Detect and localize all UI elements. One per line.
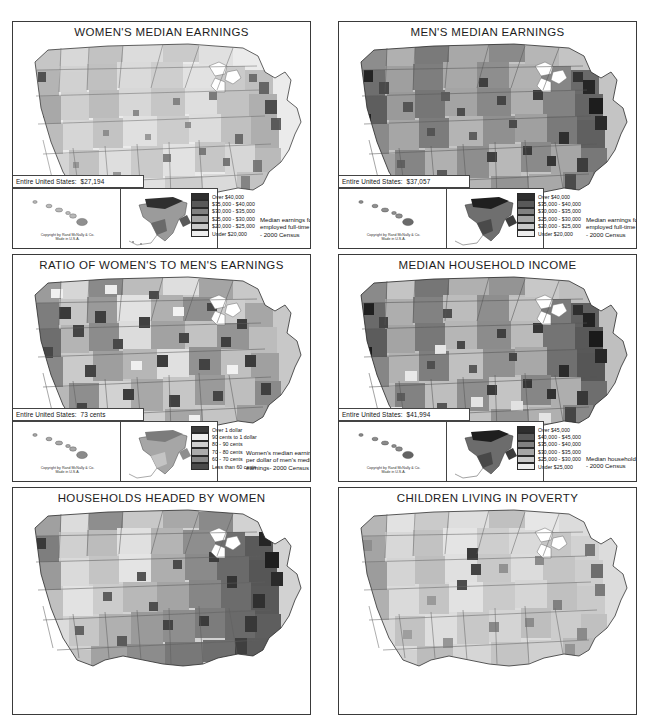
- map-panel-ratio-womens-to-mens-earnings[interactable]: RATIO OF WOMEN'S TO MEN'S EARNINGS Entir…: [12, 254, 311, 482]
- legend-label: $25,000 - $30,000: [538, 456, 581, 462]
- legend-row: $20,000 - $25,000: [517, 223, 581, 230]
- panel-title-womens-median-earnings: WOMEN'S MEDIAN EARNINGS: [13, 26, 310, 38]
- legend-swatch: [191, 433, 209, 440]
- national-stat-womens-median-earnings: Entire United States: $27,194: [12, 175, 144, 188]
- map-panel-households-headed-by-women[interactable]: HOUSEHOLDS HEADED BY WOMEN: [12, 487, 311, 715]
- legend-swatch: [517, 448, 535, 455]
- legend-row: $25,000 - $30,000: [517, 456, 581, 463]
- legend-caption-ratio-earnings: Women's median earnings per dollar of me…: [246, 449, 311, 471]
- national-stat-value: $27,194: [80, 178, 104, 185]
- legend-swatch: [517, 456, 535, 463]
- legend-swatch: [517, 193, 535, 200]
- legend-caption-median-household-income: Median household income - 2000 Census: [586, 455, 637, 470]
- national-stat-label: Entire United States:: [342, 178, 403, 185]
- national-stat-median-household-income: Entire United States: $41,994: [338, 408, 470, 421]
- legend-row: $25,000 - $30,000: [191, 215, 255, 222]
- legend-swatch: [191, 448, 209, 455]
- legend-swatch: [191, 230, 209, 237]
- legend-label: Over $45,000: [538, 427, 570, 433]
- copyright-line-2: Made in U.S.A.: [381, 237, 405, 241]
- legend-label: Over $40,000: [538, 194, 570, 200]
- panel-title-ratio-womens-to-mens-earnings: RATIO OF WOMEN'S TO MEN'S EARNINGS: [13, 259, 310, 271]
- legend-mens-median-earnings: Over $40,000 $35,000 - $40,000 $30,000 -…: [517, 193, 581, 237]
- legend-swatch: [191, 200, 209, 207]
- legend-caption-mens-median-earnings: Median earnings for men employed full-ti…: [586, 216, 637, 238]
- legend-row: $20,000 - $25,000: [191, 223, 255, 230]
- us-choropleth-children-poverty: [339, 488, 636, 714]
- legend-label: Under $20,000: [212, 231, 247, 237]
- copyright-notice-mens-map: Copyright by Rand McNally & Co. Made in …: [339, 233, 448, 242]
- map-panel-median-household-income[interactable]: MEDIAN HOUSEHOLD INCOME Entire United St…: [338, 254, 637, 482]
- us-choropleth-households-headed-by-women: [13, 488, 310, 714]
- legend-swatch: [517, 200, 535, 207]
- legend-womens-median-earnings: Over $40,000 $35,000 - $40,000 $30,000 -…: [191, 193, 255, 237]
- legend-swatch: [517, 223, 535, 230]
- legend-swatch: [517, 441, 535, 448]
- legend-row: $35,000 - $40,000: [517, 200, 581, 207]
- panel-title-median-household-income: MEDIAN HOUSEHOLD INCOME: [339, 259, 636, 271]
- map-graphic-children-living-in-poverty: [339, 488, 636, 714]
- copyright-notice-household-income-map: Copyright by Rand McNally & Co. Made in …: [339, 466, 448, 475]
- national-stat-value: 73 cents: [80, 411, 105, 418]
- legend-label: Over 1 dollar: [212, 427, 242, 433]
- legend-label: Under $20,000: [538, 231, 573, 237]
- legend-label: $20,000 - $25,000: [212, 223, 255, 229]
- legend-swatch: [191, 463, 209, 470]
- legend-row: $30,000 - $35,000: [191, 208, 255, 215]
- legend-row: $25,000 - $30,000: [517, 215, 581, 222]
- hawaii-inset-womens-median-earnings: Copyright by Rand McNally & Co. Made in …: [12, 188, 123, 249]
- legend-label: 70 - 80 cents: [212, 449, 243, 455]
- legend-row: $40,000 - $45,000: [517, 433, 581, 440]
- legend-row: Under $20,000: [191, 230, 255, 237]
- legend-swatch: [191, 456, 209, 463]
- legend-row: $35,000 - $40,000: [191, 200, 255, 207]
- legend-swatch: [517, 230, 535, 237]
- legend-caption-womens-median-earnings: Median earnings for women employed full-…: [260, 216, 311, 238]
- legend-label: $30,000 - $35,000: [538, 208, 581, 214]
- panel-title-mens-median-earnings: MEN'S MEDIAN EARNINGS: [339, 26, 636, 38]
- legend-row: $35,000 - $40,000: [517, 441, 581, 448]
- national-stat-label: Entire United States:: [342, 411, 403, 418]
- legend-swatch: [191, 193, 209, 200]
- legend-row: Under $20,000: [517, 230, 581, 237]
- national-stat-value: $37,057: [406, 178, 430, 185]
- national-stat-value: $41,994: [406, 411, 430, 418]
- map-panel-children-living-in-poverty[interactable]: CHILDREN LIVING IN POVERTY: [338, 487, 637, 715]
- legend-label: 60 - 70 cents: [212, 456, 243, 462]
- panel-title-children-living-in-poverty: CHILDREN LIVING IN POVERTY: [339, 492, 636, 504]
- panel-title-households-headed-by-women: HOUSEHOLDS HEADED BY WOMEN: [13, 492, 310, 504]
- legend-label: $30,000 - $35,000: [538, 449, 581, 455]
- legend-row: Under $25,000: [517, 463, 581, 470]
- legend-label: $20,000 - $25,000: [538, 223, 581, 229]
- map-panel-mens-median-earnings[interactable]: MEN'S MEDIAN EARNINGS Entire United Stat…: [338, 21, 637, 249]
- legend-row: 90 cents to 1 dollar: [191, 433, 257, 440]
- legend-row: Over $40,000: [517, 193, 581, 200]
- legend-row: Over $40,000: [191, 193, 255, 200]
- legend-row: $30,000 - $35,000: [517, 208, 581, 215]
- legend-label: 90 cents to 1 dollar: [212, 434, 257, 440]
- hawaii-inset-median-household-income: Copyright by Rand McNally & Co. Made in …: [338, 421, 449, 482]
- legend-label: $30,000 - $35,000: [212, 208, 255, 214]
- copyright-line-1: Copyright by Rand McNally & Co.: [41, 466, 95, 470]
- map-graphic-households-headed-by-women: [13, 488, 310, 714]
- hawaii-inset-ratio-earnings: Copyright by Rand McNally & Co. Made in …: [12, 421, 123, 482]
- hawaii-inset-mens-median-earnings: Copyright by Rand McNally & Co. Made in …: [338, 188, 449, 249]
- legend-row: Over 1 dollar: [191, 426, 257, 433]
- legend-row: $30,000 - $35,000: [517, 448, 581, 455]
- legend-median-household-income: Over $45,000 $40,000 - $45,000 $35,000 -…: [517, 426, 581, 470]
- map-panel-womens-median-earnings[interactable]: WOMEN'S MEDIAN EARNINGS Entire United St…: [12, 21, 311, 249]
- legend-swatch: [517, 208, 535, 215]
- legend-swatch: [191, 215, 209, 222]
- legend-swatch: [191, 208, 209, 215]
- copyright-notice-ratio-map: Copyright by Rand McNally & Co. Made in …: [13, 466, 122, 475]
- legend-label: Over $40,000: [212, 194, 244, 200]
- copyright-line-1: Copyright by Rand McNally & Co.: [367, 233, 421, 237]
- legend-swatch: [517, 433, 535, 440]
- legend-swatch: [191, 441, 209, 448]
- legend-label: $35,000 - $40,000: [538, 441, 581, 447]
- legend-swatch: [517, 426, 535, 433]
- legend-row: Over $45,000: [517, 426, 581, 433]
- legend-swatch: [191, 223, 209, 230]
- legend-swatch: [517, 215, 535, 222]
